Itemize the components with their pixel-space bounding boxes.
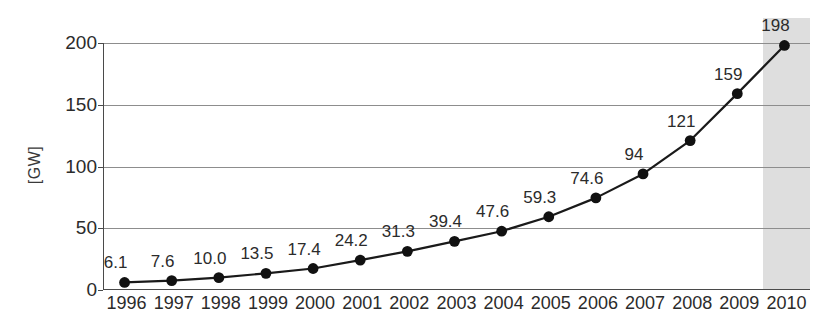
x-tick-label: 2004 — [484, 293, 524, 314]
x-tick-label: 2010 — [766, 293, 806, 314]
data-point-label: 74.6 — [570, 169, 603, 189]
x-tick-label: 2006 — [578, 293, 618, 314]
x-tick-label: 2002 — [389, 293, 429, 314]
y-tick-label: 50 — [51, 217, 97, 239]
data-point-marker[interactable] — [685, 135, 696, 146]
data-point-marker[interactable] — [213, 272, 224, 283]
data-point-marker[interactable] — [779, 40, 790, 51]
x-tick-label: 1996 — [107, 293, 147, 314]
data-point-label: 17.4 — [288, 240, 321, 260]
data-point-label: 13.5 — [240, 244, 273, 264]
x-tick-label: 1997 — [154, 293, 194, 314]
x-axis-tick-labels: 1996199719981999200020012002200320042005… — [103, 293, 810, 327]
data-point-marker[interactable] — [166, 275, 177, 286]
data-point-marker[interactable] — [119, 277, 130, 288]
data-point-label: 31.3 — [382, 222, 415, 242]
x-tick-label: 2008 — [672, 293, 712, 314]
data-point-label: 6.1 — [104, 253, 128, 273]
data-point-label: 10.0 — [193, 249, 226, 269]
series-polyline — [125, 45, 785, 282]
data-point-label: 39.4 — [429, 212, 462, 232]
data-point-label: 94 — [625, 145, 644, 165]
x-tick-label: 2007 — [625, 293, 665, 314]
data-point-marker[interactable] — [496, 226, 507, 237]
y-tick-label: 200 — [51, 32, 97, 54]
data-point-marker[interactable] — [543, 211, 554, 222]
plot-area: 6.17.610.013.517.424.231.339.447.659.374… — [103, 43, 810, 290]
data-point-label: 47.6 — [476, 202, 509, 222]
data-point-marker[interactable] — [732, 88, 743, 99]
data-point-marker[interactable] — [591, 192, 602, 203]
y-tick-label: 100 — [51, 156, 97, 178]
y-tick-mark — [98, 290, 103, 291]
data-point-marker[interactable] — [449, 236, 460, 247]
x-tick-label: 2000 — [295, 293, 335, 314]
y-tick-label: 0 — [51, 279, 97, 301]
x-tick-label: 2009 — [719, 293, 759, 314]
data-point-label: 59.3 — [523, 188, 556, 208]
x-tick-label: 2001 — [342, 293, 382, 314]
y-axis-tick-labels: 050100150200 — [47, 0, 97, 330]
data-point-label: 121 — [667, 112, 695, 132]
data-point-label: 24.2 — [335, 231, 368, 251]
x-tick-label: 2005 — [531, 293, 571, 314]
data-point-marker[interactable] — [308, 263, 319, 274]
data-point-label: 198 — [761, 16, 789, 36]
data-point-marker[interactable] — [261, 268, 272, 279]
x-tick-label: 1998 — [201, 293, 241, 314]
line-chart: [GW] 050100150200 6.17.610.013.517.424.2… — [0, 0, 833, 330]
data-point-label: 7.6 — [151, 252, 175, 272]
x-tick-label: 1999 — [248, 293, 288, 314]
x-tick-label: 2003 — [436, 293, 476, 314]
data-point-label: 159 — [714, 65, 742, 85]
data-point-marker[interactable] — [402, 246, 413, 257]
data-point-marker[interactable] — [355, 255, 366, 266]
data-point-marker[interactable] — [638, 169, 649, 180]
y-axis-title: [GW] — [26, 146, 44, 184]
y-tick-label: 150 — [51, 94, 97, 116]
